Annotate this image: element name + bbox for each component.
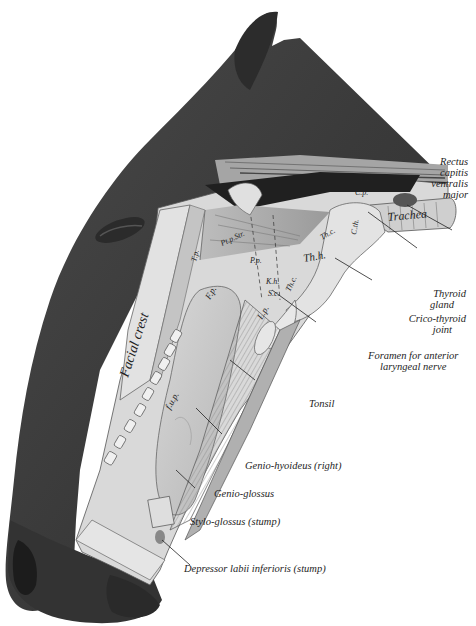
- thyroid-gland-shape: [393, 193, 417, 207]
- illustration: Facial crest Trachea Oes. C.p. Th.c. Th.…: [0, 0, 476, 626]
- label-line: Thyroid: [430, 288, 466, 299]
- label-line: laryngeal nerve: [368, 361, 458, 372]
- label-stylo-glossus: Stylo-glossus (stump): [190, 516, 280, 527]
- stylo-glossus-stump: [148, 496, 175, 527]
- label-line: ventralis: [431, 178, 468, 189]
- depressor-stump: [155, 530, 165, 544]
- label-line: Rectus: [431, 156, 468, 167]
- inline-sc: S.c.: [268, 289, 280, 298]
- horse-head-dissection-figure: Facial crest Trachea Oes. C.p. Th.c. Th.…: [0, 0, 476, 626]
- label-rectus-capitis-ventralis-major: Rectus capitis ventralis major: [431, 156, 468, 200]
- label-depressor-labii-inferioris: Depressor labii inferioris (stump): [184, 563, 326, 574]
- label-genio-hyoideus: Genio-hyoideus (right): [245, 460, 342, 471]
- label-genio-glossus: Genio-glossus: [214, 488, 274, 499]
- label-line: gland: [430, 299, 466, 310]
- label-crico-thyroid-joint: Crico-thyroid joint: [409, 313, 466, 335]
- inline-oes: Oes.: [360, 173, 376, 183]
- label-line: capitis: [431, 167, 468, 178]
- label-line: Crico-thyroid: [409, 313, 466, 324]
- inline-pip: P.p.: [249, 256, 262, 265]
- label-line: Foramen for anterior: [368, 350, 458, 361]
- inline-kh: K.h.: [265, 277, 279, 286]
- label-tonsil: Tonsil: [309, 398, 334, 409]
- inline-cp: C.p.: [355, 188, 368, 197]
- label-foramen-anterior-laryngeal-nerve: Foramen for anterior laryngeal nerve: [368, 350, 458, 372]
- label-line: major: [431, 189, 468, 200]
- label-thyroid-gland: Thyroid gland: [430, 288, 466, 310]
- label-line: joint: [409, 324, 466, 335]
